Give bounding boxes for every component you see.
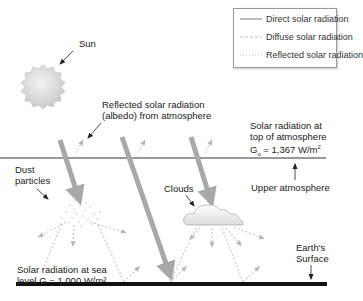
dust-pointer-arrow	[37, 189, 48, 199]
dust-line2: particles	[15, 175, 50, 186]
toa-value: = 1,367 W/m	[261, 144, 318, 155]
reflected-arrow	[205, 142, 211, 153]
legend-item-reflected: Reflected solar radiation	[266, 50, 363, 60]
toa-line3: Go = 1,367 W/m2	[250, 142, 327, 160]
toa-line2: top of atmosphere	[250, 131, 327, 142]
dust-particles-label: Dust particles	[15, 164, 50, 186]
earths-surface-label: Earth's Surface	[296, 242, 329, 264]
toa-line1: Solar radiation at	[250, 120, 327, 131]
sea-line1: Solar radiation at sea	[17, 264, 107, 275]
reflected-arrow	[76, 142, 82, 153]
clouds-pointer-arrow	[186, 195, 194, 206]
sun-label: Sun	[79, 38, 96, 49]
sea-line2: level G = 1,000 W/m²	[17, 275, 107, 286]
dust-line1: Dust	[15, 164, 50, 175]
diffuse-radiation-cloud	[170, 227, 262, 282]
earth-line1: Earth's	[296, 242, 329, 253]
clouds-label: Clouds	[164, 183, 194, 194]
upper-atmosphere-label: Upper atmosphere	[251, 182, 330, 193]
cloud-icon	[184, 205, 244, 225]
direct-radiation-arrow-ground	[122, 137, 169, 272]
legend: Direct solar radiation Diffuse solar rad…	[233, 8, 337, 68]
albedo-pointer-arrow	[88, 123, 101, 138]
earth-line2: Surface	[296, 253, 329, 264]
legend-label: Diffuse solar radiation	[266, 32, 353, 42]
legend-item-diffuse: Diffuse solar radiation	[266, 32, 353, 42]
albedo-label-line2: (albedo) from atmosphere	[102, 110, 211, 121]
sun-pointer-arrow	[60, 51, 73, 64]
toa-sup: 2	[318, 144, 321, 150]
legend-label: Reflected solar radiation	[266, 50, 363, 60]
albedo-label-line1: Reflected solar radiation	[102, 99, 211, 110]
legend-label: Direct solar radiation	[266, 14, 349, 24]
sun-icon	[21, 65, 65, 109]
albedo-label: Reflected solar radiation (albedo) from …	[102, 99, 211, 121]
reflected-arrow	[138, 142, 144, 153]
direct-radiation-arrow-dust	[60, 140, 78, 196]
sea-level-label: Solar radiation at sea level G = 1,000 W…	[17, 264, 107, 286]
legend-item-direct: Direct solar radiation	[266, 14, 349, 24]
top-of-atmosphere-label: Solar radiation at top of atmosphere Go …	[250, 120, 327, 160]
